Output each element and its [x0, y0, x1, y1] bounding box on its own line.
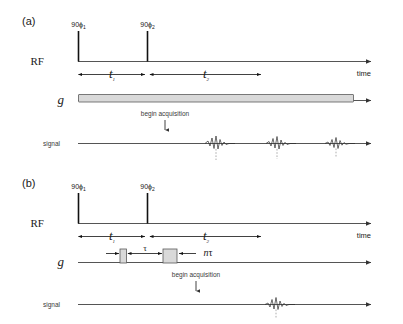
panel-a-label: (a) [22, 15, 35, 27]
signal-echo-1 [205, 136, 235, 160]
panel-b-gradient-row: g τ nτ [58, 243, 372, 269]
panel-b-rf-row: RF 90ϕ1 90ϕ2 time [31, 183, 371, 240]
echo-waveform [265, 298, 295, 310]
interval-t1-label: t1 [109, 66, 115, 82]
panel-a-gradient-row: g [58, 92, 372, 107]
rf-pulse-1-label: 90ϕ1 [71, 183, 86, 192]
gradient-tau-label: τ [143, 243, 147, 253]
panel-b-signal-row: signal [43, 298, 371, 320]
echo-waveform [266, 137, 296, 150]
signal-echo-3 [325, 138, 355, 159]
signal-echo-1 [265, 298, 295, 320]
gradient-ntau-label: nτ [203, 247, 212, 258]
signal-echo-2 [266, 137, 296, 160]
gradient-pulse-1 [120, 249, 127, 263]
begin-acquisition-label: begin acquisition [172, 271, 221, 279]
rf-axis-time-label: time [357, 69, 371, 78]
rf-axis-time-label: time [357, 231, 371, 240]
figure-canvas: (a) RF 90ϕ1 90ϕ2 time t1 t2 g begin [0, 0, 403, 324]
rf-row-label: RF [31, 55, 44, 67]
rf-pulse-1-label: 90ϕ1 [71, 21, 86, 30]
gradient-row-label: g [58, 92, 65, 107]
panel-a-rf-row: RF 90ϕ1 90ϕ2 time [31, 21, 371, 78]
gradient-continuous-bar [79, 95, 354, 103]
interval-t2-label: t2 [203, 66, 210, 82]
pulse-sequence-diagram: (a) RF 90ϕ1 90ϕ2 time t1 t2 g begin [0, 0, 403, 324]
panel-b-label: (b) [22, 177, 35, 189]
panel-a: (a) RF 90ϕ1 90ϕ2 time t1 t2 g begin [22, 15, 371, 160]
signal-row-label: signal [43, 140, 61, 148]
echo-waveform [205, 136, 235, 149]
panel-a-acquisition-annotation: begin acquisition [141, 110, 190, 130]
signal-row-label: signal [43, 301, 61, 309]
interval-t1-label: t1 [109, 228, 115, 244]
panel-a-signal-row: signal [43, 136, 371, 160]
interval-t2-label: t2 [203, 228, 210, 244]
gradient-pulse-2 [163, 249, 177, 263]
rf-row-label: RF [31, 217, 44, 229]
rf-pulse-2-label: 90ϕ2 [140, 183, 155, 192]
panel-a-intervals: t1 t2 [79, 66, 262, 82]
panel-b-acquisition-annotation: begin acquisition [172, 271, 221, 291]
begin-acquisition-label: begin acquisition [141, 110, 190, 118]
gradient-row-label: g [58, 254, 65, 269]
panel-b: (b) RF 90ϕ1 90ϕ2 time t1 t2 g [22, 177, 371, 319]
rf-pulse-2-label: 90ϕ2 [140, 21, 155, 30]
panel-b-intervals: t1 t2 [79, 228, 262, 244]
